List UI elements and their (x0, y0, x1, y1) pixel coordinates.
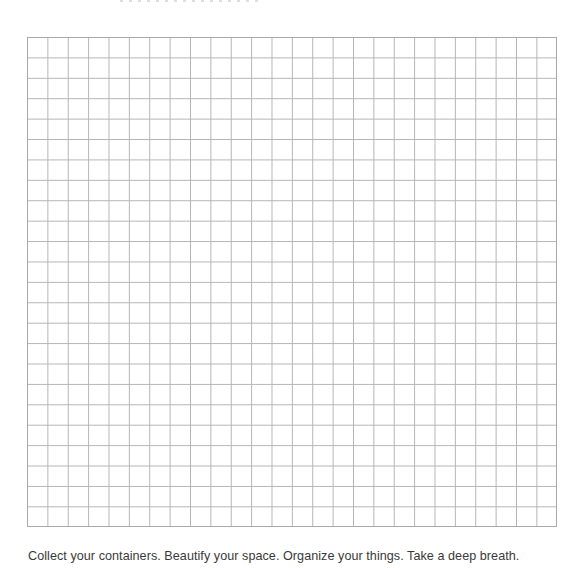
clipped-header-text (120, 0, 260, 4)
clipped-text-fragment (120, 0, 260, 2)
caption-text: Collect your containers. Beautify your s… (28, 549, 519, 563)
graph-paper-grid (27, 37, 557, 527)
